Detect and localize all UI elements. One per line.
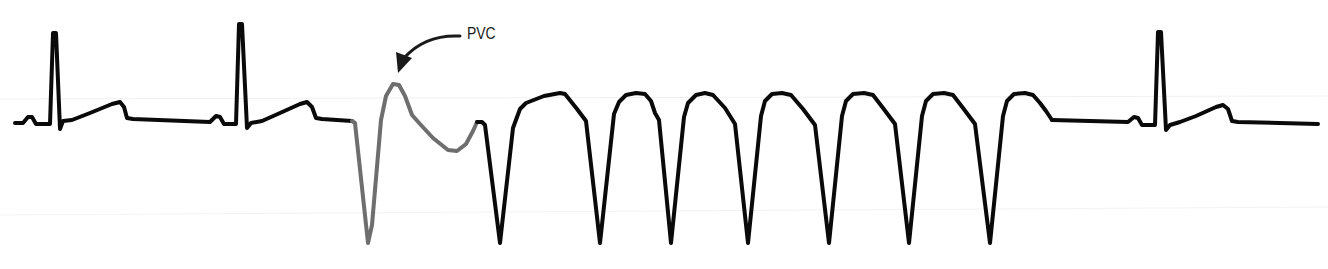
normal-beats-trace — [15, 24, 352, 129]
ecg-figure: PVC — [0, 0, 1328, 269]
vt-run-trace — [477, 93, 1052, 243]
recovery-beat-trace — [1052, 32, 1318, 130]
pvc-label: PVC — [467, 24, 496, 44]
pvc-arrow-icon — [396, 36, 460, 73]
ecg-strip — [0, 0, 1328, 269]
pvc-trace — [352, 84, 477, 243]
